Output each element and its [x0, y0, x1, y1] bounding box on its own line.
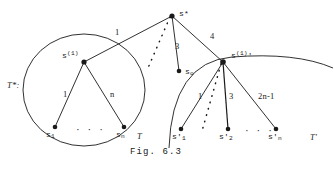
edge-label-right-last: 2n-1 [258, 92, 274, 101]
edge-label-left-last: n [110, 90, 114, 99]
node-right-leaf-1 [179, 127, 184, 132]
edge-label-right-first: 1 [198, 92, 202, 101]
edge-label-root-to-right: 4 [210, 32, 214, 41]
node-label-root-name: s* [179, 9, 189, 18]
edge-label-left-first: 1 [63, 90, 67, 99]
node-left-leaf-1 [53, 125, 58, 130]
node-label-right-child-prime: ' [248, 51, 253, 60]
figure-6-3: T*: s* s(1) so s(1)' s1 · · · sn T s'1 s… [0, 0, 334, 169]
node-label-right-child: s(1)' [231, 51, 253, 60]
edge-label-right-second: 3 [229, 92, 233, 101]
node-label-left-leaf-1: s1 [46, 131, 55, 141]
node-label-left-leaf-n: sn [116, 131, 125, 141]
node-label-right-leaf-2: s'2 [219, 133, 233, 143]
edge-label-root-to-left: 1 [115, 28, 119, 37]
node-label-left-child-sup: (1) [67, 50, 79, 57]
node-label-middle-child-sub: o [190, 70, 194, 77]
figure-caption: Fig. 6.3 [130, 148, 182, 157]
left-tree-label: T [137, 132, 142, 141]
node-label-right-leaf-2-sub: 2 [229, 135, 233, 142]
node-label-right-leaf-1: s'1 [172, 133, 186, 143]
edge-left-child-to-leaf-1 [55, 62, 84, 127]
edge-left-child-to-leaf-n [84, 62, 124, 127]
node-label-middle-child: so [185, 68, 194, 78]
node-label-right-leaf-n: s'n [268, 133, 282, 143]
node-left-leaf-n [122, 125, 127, 130]
node-middle-child-s-o [177, 69, 182, 74]
figure-diagram-canvas [0, 0, 334, 169]
tree-star-label: T*: [7, 81, 19, 90]
left-subtree-ellipsis: · · · [76, 124, 106, 135]
node-label-root: s* [179, 10, 189, 18]
edge-root-to-right-child [172, 16, 223, 62]
node-label-left-child: s(1) [62, 51, 79, 60]
edge-right-child-to-leaf-2 [223, 62, 228, 129]
node-label-right-leaf-n-sub: n [278, 135, 282, 142]
node-left-child [81, 59, 86, 64]
edge-right-subtree-omitted-dotted [202, 64, 221, 131]
edge-root-to-left-child [84, 16, 172, 62]
node-right-child [220, 59, 226, 65]
node-root-s-star [169, 13, 174, 18]
node-label-left-leaf-1-sub: 1 [51, 133, 55, 140]
node-right-leaf-2 [226, 127, 231, 132]
edge-root-omitted-dotted [148, 17, 170, 68]
node-label-right-leaf-1-sub: 1 [182, 135, 186, 142]
node-label-right-child-sup: (1) [236, 50, 248, 57]
right-tree-label: T' [310, 133, 317, 142]
edge-label-root-to-middle: 3 [175, 42, 179, 51]
node-label-left-leaf-n-sub: n [121, 133, 125, 140]
